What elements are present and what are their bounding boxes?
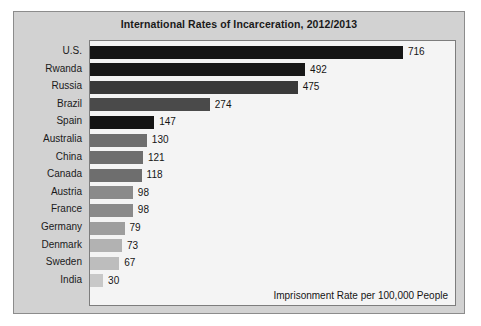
bar-track: 98 [90, 184, 149, 202]
bar-row: 121 [90, 149, 455, 167]
bar-track: 73 [90, 237, 138, 255]
bar [90, 169, 142, 182]
bar-value-label: 121 [148, 153, 165, 163]
bar-row: 79 [90, 219, 455, 237]
bar [90, 63, 305, 76]
bar [90, 134, 147, 147]
category-label-rwanda: Rwanda [14, 60, 82, 78]
bar-value-label: 67 [124, 258, 135, 268]
bar [90, 98, 210, 111]
bar-row: 492 [90, 61, 455, 79]
bar-track: 130 [90, 131, 169, 149]
bar-row: 73 [90, 237, 455, 255]
bar [90, 116, 154, 129]
category-label-denmark: Denmark [14, 236, 82, 254]
bar-row: 118 [90, 166, 455, 184]
bar-row: 67 [90, 254, 455, 272]
category-label-spain: Spain [14, 112, 82, 130]
bar-row: 130 [90, 131, 455, 149]
category-label-france: France [14, 200, 82, 218]
bar-value-label: 130 [152, 135, 169, 145]
bar [90, 204, 133, 217]
bar-track: 79 [90, 219, 141, 237]
category-label-sweden: Sweden [14, 253, 82, 271]
bar-value-label: 492 [310, 65, 327, 75]
category-label-china: China [14, 148, 82, 166]
bar-track: 492 [90, 61, 327, 79]
bar [90, 151, 143, 164]
bar-row: 98 [90, 201, 455, 219]
bar-value-label: 147 [159, 117, 176, 127]
bar-row: 716 [90, 43, 455, 61]
bar-value-label: 274 [215, 100, 232, 110]
category-label-germany: Germany [14, 218, 82, 236]
chart-title: International Rates of Incarceration, 20… [14, 18, 464, 30]
bar [90, 257, 119, 270]
bar-value-label: 79 [130, 223, 141, 233]
bar-track: 118 [90, 166, 163, 184]
bar-row: 475 [90, 78, 455, 96]
category-label-australia: Australia [14, 130, 82, 148]
bar [90, 46, 403, 59]
bar-track: 274 [90, 96, 231, 114]
bar-row: 98 [90, 184, 455, 202]
category-label-india: India [14, 271, 82, 289]
bar-value-label: 30 [108, 276, 119, 286]
category-label-u-s: U.S. [14, 42, 82, 60]
plot-area: 716492475274147130121118989879736730 Imp… [89, 40, 456, 306]
bar-track: 147 [90, 113, 176, 131]
bar [90, 186, 133, 199]
category-label-austria: Austria [14, 183, 82, 201]
bar-row: 274 [90, 96, 455, 114]
category-label-brazil: Brazil [14, 95, 82, 113]
bar-value-label: 73 [127, 241, 138, 251]
bar [90, 81, 298, 94]
bar [90, 222, 125, 235]
bar-track: 98 [90, 201, 149, 219]
bar-track: 67 [90, 254, 135, 272]
category-label-russia: Russia [14, 77, 82, 95]
chart-figure: International Rates of Incarceration, 20… [13, 11, 465, 314]
bar-track: 716 [90, 43, 425, 61]
bar-track: 475 [90, 78, 319, 96]
bar-row: 147 [90, 113, 455, 131]
bar-track: 121 [90, 149, 165, 167]
bar-value-label: 118 [147, 170, 163, 180]
bar-value-label: 716 [408, 47, 425, 57]
bar-value-label: 98 [138, 188, 149, 198]
bar-value-label: 475 [303, 82, 320, 92]
category-label-canada: Canada [14, 165, 82, 183]
bar-track: 30 [90, 272, 119, 290]
chart-annotation: Imprisonment Rate per 100,000 People [273, 290, 448, 301]
bar [90, 239, 122, 252]
bar-value-label: 98 [138, 205, 149, 215]
bar-row: 30 [90, 272, 455, 290]
bar [90, 274, 103, 287]
